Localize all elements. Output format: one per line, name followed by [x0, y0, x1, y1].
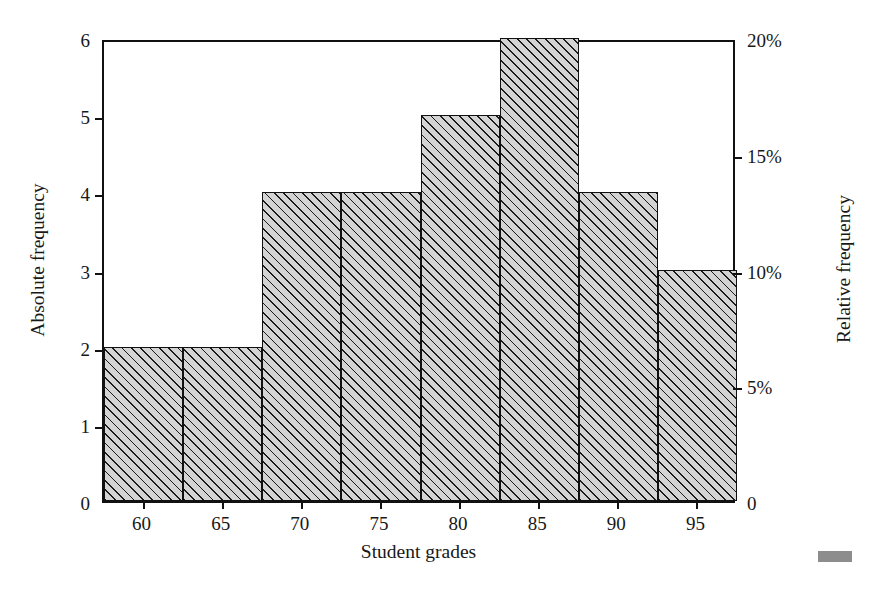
- x-axis-tick: [143, 501, 145, 509]
- y-axis-tick-right: [733, 157, 742, 159]
- y-axis-tick-label-left: 1: [81, 416, 91, 435]
- x-axis-tick: [696, 501, 698, 509]
- x-axis-tick-label: 60: [132, 514, 151, 533]
- y-axis-tick-right: [733, 273, 742, 275]
- bar: [579, 192, 658, 501]
- y-axis-tick-label-right: 5%: [747, 378, 772, 397]
- y-axis-title-right: Relative frequency: [833, 119, 855, 419]
- y-axis-title-left: Absolute frequency: [27, 110, 49, 410]
- y-axis-tick-label-right: 15%: [747, 146, 782, 165]
- y-axis-tick-left: [95, 350, 104, 352]
- x-axis-tick-label: 85: [528, 514, 547, 533]
- y-axis-tick-label-left: 0: [81, 494, 91, 513]
- x-axis-tick-label: 95: [686, 514, 705, 533]
- y-axis-tick-label-left: 6: [81, 31, 91, 50]
- y-axis-tick-left: [95, 273, 104, 275]
- y-axis-tick-label-right: 0: [747, 494, 757, 513]
- bar: [658, 270, 737, 502]
- y-axis-tick-left: [95, 427, 104, 429]
- x-axis-tick: [222, 501, 224, 509]
- bar: [500, 38, 579, 501]
- x-axis-tick: [301, 501, 303, 509]
- y-axis-tick-left: [95, 195, 104, 197]
- y-axis-tick-label-right: 10%: [747, 262, 782, 281]
- bar: [341, 192, 420, 501]
- plot-area: [102, 40, 735, 503]
- histogram-figure: Absolute frequency Relative frequency St…: [0, 0, 874, 594]
- x-axis-tick: [459, 501, 461, 509]
- y-axis-tick-labels-left: 0123456: [52, 40, 90, 503]
- x-axis-tick-labels: 6065707580859095: [102, 514, 735, 538]
- bar: [183, 347, 262, 501]
- bar-series: [104, 42, 733, 501]
- y-axis-tick-label-left: 4: [81, 185, 91, 204]
- scan-artifact-mark: [818, 551, 852, 562]
- x-axis-tick-label: 70: [290, 514, 309, 533]
- x-axis-tick-label: 75: [369, 514, 388, 533]
- bar: [262, 192, 341, 501]
- x-axis-tick: [617, 501, 619, 509]
- y-axis-tick-right: [733, 388, 742, 390]
- y-axis-tick-left: [95, 118, 104, 120]
- x-axis-tick: [538, 501, 540, 509]
- x-axis-tick-label: 90: [607, 514, 626, 533]
- x-axis-tick-label: 80: [449, 514, 468, 533]
- y-axis-tick-label-left: 3: [81, 262, 91, 281]
- x-axis-title: Student grades: [102, 541, 735, 563]
- y-axis-tick-label-left: 5: [81, 108, 91, 127]
- bar: [421, 115, 500, 501]
- y-axis-tick-label-left: 2: [81, 339, 91, 358]
- y-axis-tick-labels-right: 05%10%15%20%: [747, 40, 807, 503]
- y-axis-tick-label-right: 20%: [747, 31, 782, 50]
- bar: [104, 347, 183, 501]
- x-axis-tick: [380, 501, 382, 509]
- x-axis-tick-label: 65: [211, 514, 230, 533]
